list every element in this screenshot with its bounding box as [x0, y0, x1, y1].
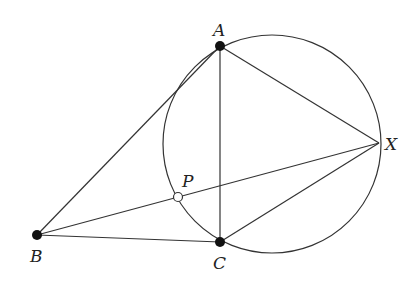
label-point-a: A	[213, 22, 225, 39]
circumcircle	[163, 35, 381, 253]
point-c	[215, 237, 225, 247]
segment-bc	[37, 235, 220, 242]
segment-ax	[220, 46, 379, 143]
points	[32, 41, 225, 247]
segment-ab	[37, 46, 220, 235]
point-a	[215, 41, 225, 51]
label-point-c: C	[213, 255, 226, 272]
point-b	[32, 230, 42, 240]
segments	[37, 46, 379, 242]
point-p	[174, 193, 183, 202]
diagram-canvas	[0, 0, 414, 282]
segment-cx	[220, 143, 379, 242]
label-point-b: B	[30, 248, 43, 265]
label-point-p: P	[182, 173, 193, 190]
label-point-x: X	[385, 136, 397, 153]
geometry-diagram: A B C X P	[0, 0, 414, 282]
segment-bx	[37, 143, 379, 235]
